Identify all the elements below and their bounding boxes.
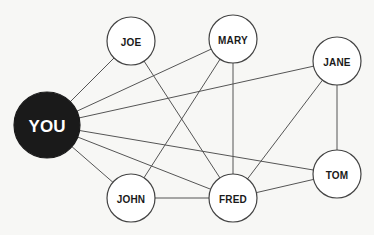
edge-you-jane xyxy=(47,61,337,125)
node-tom: TOM xyxy=(313,150,361,198)
nodes-layer: YOUJOEMARYJANEJOHNFREDTOM xyxy=(14,15,361,222)
network-diagram: YOUJOEMARYJANEJOHNFREDTOM xyxy=(0,0,374,235)
node-label: JOE xyxy=(121,37,142,48)
node-label: JANE xyxy=(323,57,351,68)
node-joe: JOE xyxy=(107,17,155,65)
node-label: TOM xyxy=(326,170,349,181)
node-fred: FRED xyxy=(209,174,257,222)
node-mary: MARY xyxy=(209,15,257,63)
node-label: YOU xyxy=(29,117,66,136)
edges-layer xyxy=(47,39,337,198)
node-jane: JANE xyxy=(313,37,361,85)
node-label: MARY xyxy=(218,35,248,46)
node-you: YOU xyxy=(14,92,80,158)
node-john: JOHN xyxy=(107,174,155,222)
node-label: JOHN xyxy=(117,194,146,205)
node-label: FRED xyxy=(219,194,247,205)
edge-you-tom xyxy=(47,125,337,174)
